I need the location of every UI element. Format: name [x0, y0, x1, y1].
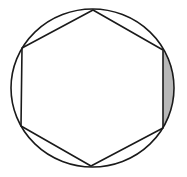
inscribed-regular-hexagon: [21, 10, 163, 166]
hexagon-in-circle-diagram: [0, 0, 187, 177]
circumscribed-circle: [11, 9, 174, 167]
